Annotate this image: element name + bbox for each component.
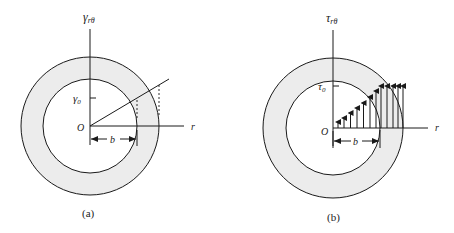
dimension-label-b-a: b [110,134,115,145]
origin-label-b: O [321,126,328,137]
axis-label-gamma-rtheta: γrθ [83,10,95,25]
caption-b: (b) [327,211,340,224]
panel-b: τrθ τ0 O r b (b) [263,11,439,224]
axis-label-tau-rtheta: τrθ [326,11,337,26]
radial-label-a: r [191,121,195,132]
dimension-label-b-b: b [353,136,358,147]
radial-label-b: r [435,122,439,133]
caption-a: (a) [82,207,95,220]
origin-label-a: O [77,122,84,133]
figure-canvas: γrθ γ0 O r b (a) [0,0,454,233]
panel-a: γrθ γ0 O r b (a) [21,10,195,220]
